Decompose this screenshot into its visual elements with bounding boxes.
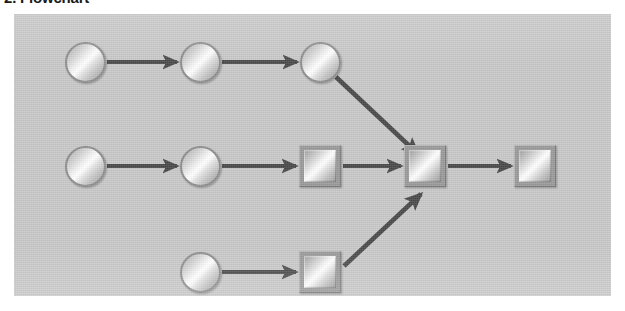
circle-node-r2n2[interactable] [180,146,221,187]
square-node-merge[interactable] [404,145,446,187]
square-node-face [304,256,336,288]
flowchart-figure-panel [14,14,611,296]
page-title: 2. Flowchart [4,0,89,6]
square-node-face [519,150,551,182]
square-node-r3n2[interactable] [299,251,341,293]
circle-node-r1n1[interactable] [65,42,106,83]
arrow-r1n3-merge [336,77,418,154]
circle-node-r2n1[interactable] [65,146,106,187]
square-node-r2n3[interactable] [299,145,341,187]
square-node-face [304,150,336,182]
square-node-r2n5[interactable] [514,145,556,187]
circle-node-r1n3[interactable] [300,42,341,83]
circle-node-r3n1[interactable] [180,252,221,293]
arrow-r3n2-merge [344,194,421,266]
circle-node-r1n2[interactable] [180,42,221,83]
square-node-face [409,150,441,182]
